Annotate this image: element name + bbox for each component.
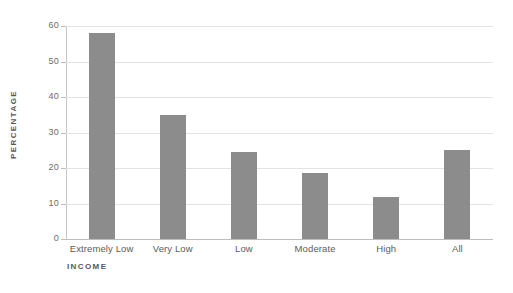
bar: [373, 197, 399, 239]
y-axis-title-label: PERCENTAGE: [9, 90, 18, 159]
gridline-20: [66, 168, 493, 169]
bar-group: [444, 26, 470, 239]
bar: [302, 173, 328, 239]
gridline-40: [66, 97, 493, 98]
x-axis-tick-labels: Extremely LowVery LowLowModerateHighAll: [66, 243, 493, 259]
gridline-50: [66, 62, 493, 63]
y-tick-mark-60: [61, 26, 66, 27]
plot-area: [66, 26, 493, 239]
gridline-30: [66, 133, 493, 134]
y-tick-label: 20: [33, 162, 59, 172]
bar: [160, 115, 186, 239]
bar-group: [231, 26, 257, 239]
bar: [231, 152, 257, 239]
gridline-0: [66, 239, 493, 240]
y-tick-label: 10: [33, 198, 59, 208]
bar-chart-figure: PERCENTAGE 0102030405060 Extremely LowVe…: [0, 0, 513, 293]
y-tick-mark-40: [61, 97, 66, 98]
gridline-60: [66, 26, 493, 27]
gridline-10: [66, 204, 493, 205]
x-axis-title: INCOME: [67, 262, 107, 271]
x-tick-label: All: [397, 243, 513, 254]
y-tick-label: 40: [33, 91, 59, 101]
y-tick-label: 30: [33, 127, 59, 137]
bar-group: [302, 26, 328, 239]
y-tick-label: 0: [33, 233, 59, 243]
y-tick-mark-10: [61, 204, 66, 205]
bar: [89, 33, 115, 239]
y-tick-mark-30: [61, 133, 66, 134]
bar-group: [373, 26, 399, 239]
bar: [444, 150, 470, 239]
y-axis-title: PERCENTAGE: [0, 0, 26, 248]
y-tick-mark-0: [61, 239, 66, 240]
bar-group: [160, 26, 186, 239]
y-tick-mark-20: [61, 168, 66, 169]
y-tick-label: 50: [33, 56, 59, 66]
y-tick-label: 60: [33, 20, 59, 30]
bar-group: [89, 26, 115, 239]
y-tick-mark-50: [61, 62, 66, 63]
